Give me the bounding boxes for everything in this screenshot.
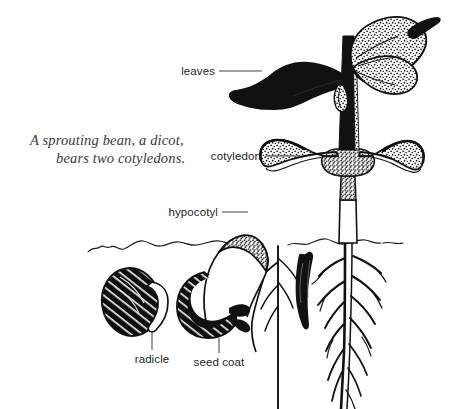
- label-leaves: leaves: [181, 65, 215, 77]
- botanical-figure: leaves cotyledon hypocotyl radicle seed …: [0, 0, 449, 409]
- root-system: [312, 243, 386, 409]
- caption-line-1: A sprouting bean, a dicot,: [29, 132, 184, 148]
- leaf-group: [229, 17, 441, 112]
- illustration-canvas: leaves cotyledon hypocotyl radicle seed …: [0, 0, 449, 409]
- germinating-bean-stage2: [170, 235, 268, 352]
- label-seed-coat: seed coat: [194, 356, 245, 368]
- label-cotyledon: cotyledon: [211, 150, 261, 162]
- label-hypocotyl: hypocotyl: [169, 206, 218, 218]
- label-radicle: radicle: [135, 353, 170, 365]
- caption-line-2: bears two cotyledons.: [56, 150, 185, 166]
- bean-with-radicle-stage1: [97, 264, 168, 342]
